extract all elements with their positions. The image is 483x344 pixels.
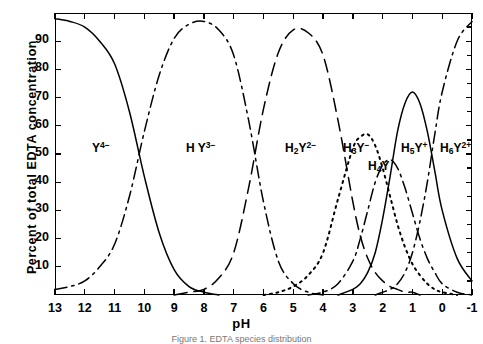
x-tick-label: 11 (100, 301, 130, 315)
x-tick-label: 9 (159, 301, 189, 315)
x-tick-label: 6 (249, 301, 279, 315)
species-label-HY3: H Y3− (186, 140, 216, 155)
x-tick-label: 1 (397, 301, 427, 315)
x-tick-label: 2 (368, 301, 398, 315)
species-label-H3Y: H3Y− (343, 140, 369, 156)
plot-area: Y4−H Y3−H2Y2−H3Y−H4YH5Y+H6Y2+ 1312111098… (55, 13, 472, 295)
species-label-H5Y: H5Y+ (401, 140, 427, 156)
y-tick-label: 10 (9, 258, 49, 272)
x-tick-label: 7 (219, 301, 249, 315)
x-tick-label: -1 (457, 301, 483, 315)
curve-Y4- (55, 19, 219, 295)
x-tick-label: 5 (278, 301, 308, 315)
x-tick-label: 3 (338, 301, 368, 315)
x-tick-label: 8 (189, 301, 219, 315)
curve-H6Y2+ (375, 21, 472, 295)
curve-H3Y- (264, 134, 458, 295)
x-tick-label: 4 (308, 301, 338, 315)
y-tick-label: 80 (9, 60, 49, 74)
curve-H5Y+ (338, 92, 472, 295)
y-tick-label: 30 (9, 201, 49, 215)
species-label-H4Y: H4Y (368, 159, 389, 174)
species-label-H2Y2: H2Y2− (285, 140, 316, 156)
y-tick-label: 60 (9, 117, 49, 131)
y-tick-label: 20 (9, 230, 49, 244)
species-label-Y4: Y4− (92, 140, 110, 155)
figure-caption: Figure 1. EDTA species distribution (0, 334, 483, 344)
y-tick-label: 40 (9, 173, 49, 187)
x-tick-label: 13 (40, 301, 70, 315)
y-tick-label: 70 (9, 89, 49, 103)
x-tick-label: 10 (129, 301, 159, 315)
x-tick-label: 0 (427, 301, 457, 315)
curve-HY3- (55, 21, 323, 295)
y-tick-label: 90 (9, 32, 49, 46)
x-axis-title: pH (0, 316, 483, 331)
y-tick-label: 50 (9, 145, 49, 159)
x-tick-label: 12 (70, 301, 100, 315)
species-label-H6Y2: H6Y2+ (440, 140, 471, 156)
